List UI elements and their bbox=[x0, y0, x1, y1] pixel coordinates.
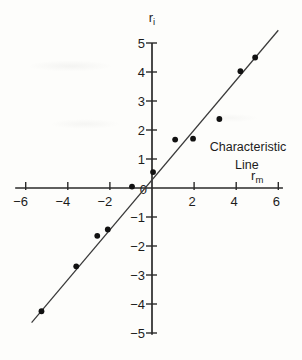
x-tick-label: −2 bbox=[97, 194, 112, 209]
characteristic-line-figure: −6−4−2246−5−4−3−2−1123450rirmCharacteris… bbox=[0, 0, 302, 360]
y-tick-label: −1 bbox=[130, 210, 145, 225]
y-tick-label: 3 bbox=[138, 94, 145, 109]
data-point bbox=[129, 184, 135, 190]
y-tick-label: −5 bbox=[130, 326, 145, 341]
x-tick-label: −6 bbox=[13, 194, 28, 209]
y-tick-label: 1 bbox=[138, 152, 145, 167]
data-point bbox=[190, 136, 196, 142]
data-point bbox=[150, 169, 156, 175]
y-tick-label: 2 bbox=[138, 123, 145, 138]
x-tick-label: −4 bbox=[55, 194, 70, 209]
data-point bbox=[39, 308, 45, 314]
y-tick-label: −3 bbox=[130, 268, 145, 283]
x-tick-label: 4 bbox=[231, 194, 238, 209]
fit-line bbox=[32, 30, 279, 322]
data-point bbox=[238, 68, 244, 74]
x-tick-label: 2 bbox=[188, 194, 195, 209]
y-axis-label: ri bbox=[149, 10, 155, 27]
data-point bbox=[252, 55, 258, 61]
y-tick-label: −2 bbox=[130, 239, 145, 254]
y-tick-label: 4 bbox=[138, 65, 145, 80]
scatter-chart: −6−4−2246−5−4−3−2−1123450rirmCharacteris… bbox=[0, 0, 302, 360]
annotation-text: Characteristic bbox=[210, 140, 286, 154]
data-point bbox=[94, 233, 100, 239]
data-point bbox=[216, 116, 222, 122]
x-tick-label: 6 bbox=[273, 194, 280, 209]
y-tick-label: −4 bbox=[130, 297, 145, 312]
y-tick-label: 5 bbox=[138, 36, 145, 51]
data-point bbox=[105, 227, 111, 233]
data-point bbox=[73, 263, 79, 269]
data-point bbox=[172, 137, 178, 143]
annotation-text: Line bbox=[235, 158, 259, 172]
origin-label: 0 bbox=[140, 182, 147, 197]
